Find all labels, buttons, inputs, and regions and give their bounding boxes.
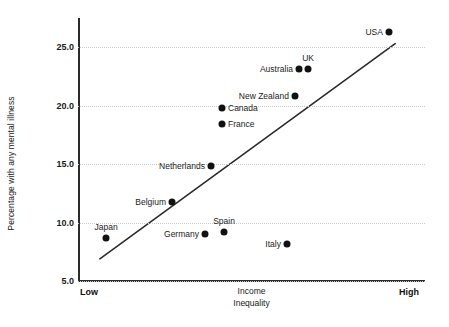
data-point (169, 198, 176, 205)
data-point-label: Spain (213, 216, 235, 226)
gridline (78, 47, 425, 49)
data-point-label: USA (365, 27, 382, 37)
data-point (202, 231, 209, 238)
data-point (221, 228, 228, 235)
data-point-label: Australia (260, 64, 293, 74)
data-point-label: New Zealand (239, 91, 289, 101)
data-point-label: Belgium (135, 197, 166, 207)
x-axis-title-line1: Income (78, 286, 425, 298)
y-axis-tick-label: 10.0 (34, 218, 74, 228)
data-point-label: Canada (228, 103, 258, 113)
data-point (296, 66, 303, 73)
data-point (385, 29, 392, 36)
data-point (305, 66, 312, 73)
scatter-chart: Percentage with any mental illness 25.02… (0, 0, 449, 327)
gridline (78, 281, 425, 283)
plot-area: JapanBelgiumGermanySpainNetherlandsItaly… (78, 18, 425, 281)
y-axis-tick-labels: 25.020.015.010.05.0 (30, 18, 74, 281)
data-point (103, 234, 110, 241)
y-axis-tick-label: 20.0 (34, 101, 74, 111)
y-axis-tick-label: 15.0 (34, 159, 74, 169)
y-axis-tick-label: 5.0 (34, 276, 74, 286)
data-point-label: France (228, 119, 254, 129)
data-point (283, 240, 290, 247)
trend-line (78, 18, 425, 281)
data-point-label: Italy (265, 239, 281, 249)
gridline (78, 164, 425, 166)
data-point-label: Netherlands (159, 161, 205, 171)
data-point (219, 121, 226, 128)
data-point-label: Japan (95, 222, 118, 232)
data-point (219, 105, 226, 112)
data-point (207, 163, 214, 170)
x-axis-title: Income Inequality (78, 286, 425, 309)
gridline (78, 223, 425, 225)
x-axis-title-line2: Inequality (78, 298, 425, 310)
y-axis-tick-label: 25.0 (34, 42, 74, 52)
data-point-label: UK (302, 53, 314, 63)
data-point-label: Germany (164, 229, 199, 239)
data-point (291, 93, 298, 100)
y-axis-title: Percentage with any mental illness (0, 0, 22, 327)
